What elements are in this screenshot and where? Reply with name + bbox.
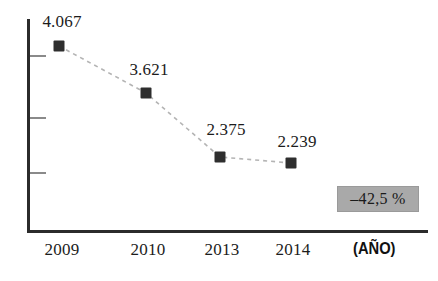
x-axis-line xyxy=(27,230,428,233)
data-point-marker[interactable] xyxy=(141,88,152,99)
data-point-marker[interactable] xyxy=(54,41,65,52)
variation-badge: –42,5 % xyxy=(337,186,419,212)
x-axis-label-2014: 2014 xyxy=(275,240,310,260)
series-polyline xyxy=(59,46,291,163)
data-point-marker[interactable] xyxy=(215,152,226,163)
x-axis-caption: (AÑO) xyxy=(353,240,396,258)
data-point-label: 2.375 xyxy=(206,120,245,140)
x-axis-label-2010: 2010 xyxy=(130,240,165,260)
series-line xyxy=(0,0,438,281)
x-axis-label-2009: 2009 xyxy=(44,240,79,260)
y-axis-line xyxy=(27,19,30,233)
data-point-label: 2.239 xyxy=(277,132,316,152)
y-axis-tick-1 xyxy=(30,55,46,57)
line-chart: 4.067 3.621 2.375 2.239 2009 2010 2013 2… xyxy=(0,0,438,281)
x-axis-label-2013: 2013 xyxy=(204,240,239,260)
data-point-label: 4.067 xyxy=(42,12,81,32)
data-point-label: 3.621 xyxy=(129,60,168,80)
y-axis-tick-3 xyxy=(30,172,46,174)
data-point-marker[interactable] xyxy=(286,158,297,169)
y-axis-tick-2 xyxy=(30,117,46,119)
